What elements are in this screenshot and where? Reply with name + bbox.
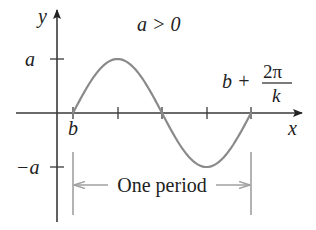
x-start-label: b	[68, 117, 78, 139]
x-end-label-denominator: k	[272, 85, 281, 106]
x-end-label-numerator: 2π	[263, 61, 283, 82]
condition-text: a > 0	[137, 13, 181, 35]
y-axis-label: y	[36, 5, 47, 28]
x-axis-label: x	[287, 117, 297, 139]
period-label: One period	[117, 174, 206, 197]
sine-period-diagram: y x a −a b b + 2π k a > 0 One period	[0, 0, 316, 230]
y-tick-label-neg-a: −a	[16, 156, 40, 178]
x-end-label-b: b +	[222, 70, 251, 92]
condition-label: a > 0	[137, 13, 181, 35]
x-end-label-prefix: b +	[222, 70, 251, 92]
y-tick-label-a: a	[25, 48, 35, 70]
